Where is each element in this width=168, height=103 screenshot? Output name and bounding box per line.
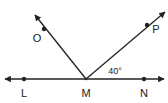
point-n [142,77,146,81]
label-m: M [81,87,90,99]
label-o: O [33,32,42,44]
ray-mo [35,15,86,79]
label-l: L [21,87,27,99]
point-o [42,27,46,31]
point-p [145,23,149,27]
point-m [85,78,87,80]
label-p: P [152,23,159,35]
angle-label: 40° [108,66,122,76]
point-l [22,77,26,81]
label-n: N [140,87,148,99]
geometry-diagram: L M N O P 40° [0,0,168,103]
